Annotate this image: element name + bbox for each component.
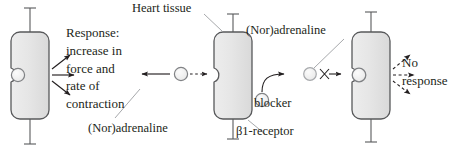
- response-line-2: increase in: [66, 42, 124, 60]
- no-response-line-2: response: [402, 72, 448, 90]
- free-noradrenaline-2: [174, 67, 187, 80]
- blocker-action-arrow: [262, 74, 284, 92]
- leader-line-noradrenaline-2: [314, 39, 344, 68]
- response-line-5: contraction: [66, 95, 124, 113]
- blocked-cross-icon: [320, 69, 329, 79]
- response-line-4: rate of: [66, 77, 124, 95]
- leader-line-heart-tissue: [204, 14, 222, 31]
- label-no-response: No response: [402, 54, 448, 90]
- label-b1-receptor: β1-receptor: [236, 124, 294, 139]
- receptor-blocker-diagram: Heart tissue Response: increase in force…: [0, 0, 472, 152]
- no-response-line-1: No: [402, 54, 448, 72]
- response-line-1: Response:: [66, 24, 124, 42]
- response-line-3: force and: [66, 60, 124, 78]
- rejected-noradrenaline-3: [304, 68, 317, 81]
- label-blocker: blocker: [254, 96, 291, 111]
- label-response-block: Response: increase in force and rate of …: [66, 24, 124, 113]
- label-heart-tissue: Heart tissue: [132, 1, 191, 16]
- label-noradrenaline-right: (Nor)adrenaline: [246, 23, 326, 38]
- bound-blocker-3: [352, 68, 366, 82]
- heart-tissue-cell-2: [214, 32, 252, 119]
- label-noradrenaline-left: (Nor)adrenaline: [88, 121, 168, 136]
- bound-noradrenaline-1: [11, 68, 24, 81]
